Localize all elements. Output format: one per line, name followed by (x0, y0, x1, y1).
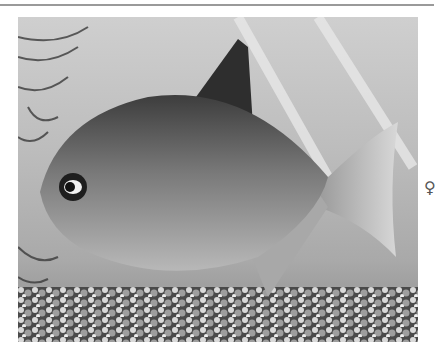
gravel (18, 287, 418, 342)
fish-photo (18, 17, 418, 342)
female-symbol: ♀ (424, 180, 436, 196)
tail-fin (318, 122, 398, 257)
top-rule (0, 4, 434, 6)
fish-illustration (18, 17, 418, 342)
